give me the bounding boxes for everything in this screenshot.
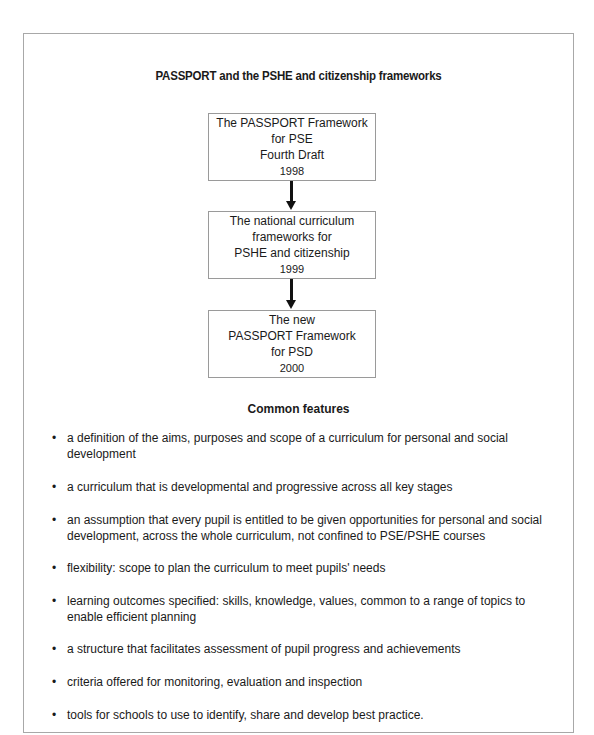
flow-box-1998: The PASSPORT Framework for PSE Fourth Dr… xyxy=(208,113,376,181)
feature-item: flexibility: scope to plan the curriculu… xyxy=(52,560,562,576)
common-features-list: a definition of the aims, purposes and s… xyxy=(52,430,562,735)
figure-title: PASSPORT and the PSHE and citizenship fr… xyxy=(46,69,551,83)
box-year: 2000 xyxy=(209,360,375,376)
feature-item: an assumption that every pupil is entitl… xyxy=(52,512,562,544)
box-line: The PASSPORT Framework xyxy=(209,115,375,131)
feature-item: learning outcomes specified: skills, kno… xyxy=(52,593,562,625)
feature-item: a definition of the aims, purposes and s… xyxy=(52,430,562,462)
box-year: 1999 xyxy=(209,261,375,277)
feature-item: a curriculum that is developmental and p… xyxy=(52,479,562,495)
common-features-heading: Common features xyxy=(24,402,573,416)
box-line: The new xyxy=(209,312,375,328)
box-line: for PSE xyxy=(209,131,375,147)
box-line: Fourth Draft xyxy=(209,147,375,163)
box-line: for PSD xyxy=(209,344,375,360)
feature-item: a structure that facilitates assessment … xyxy=(52,641,562,657)
feature-item: criteria offered for monitoring, evaluat… xyxy=(52,674,562,690)
feature-item: tools for schools to use to identify, sh… xyxy=(52,707,562,723)
flow-box-1999: The national curriculum frameworks for P… xyxy=(208,211,376,279)
box-line: frameworks for xyxy=(209,229,375,245)
box-year: 1998 xyxy=(209,163,375,179)
flow-box-2000: The new PASSPORT Framework for PSD 2000 xyxy=(208,310,376,378)
box-line: PSHE and citizenship xyxy=(209,245,375,261)
box-line: PASSPORT Framework xyxy=(209,328,375,344)
box-line: The national curriculum xyxy=(209,213,375,229)
figure-frame: PASSPORT and the PSHE and citizenship fr… xyxy=(23,33,574,733)
